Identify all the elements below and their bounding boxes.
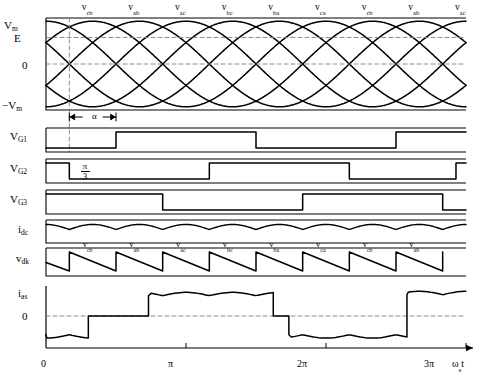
vdk-segment-label-5: vca <box>316 239 326 251</box>
xaxis-label: ωst <box>452 358 464 372</box>
vdk-segment-label-0: vcb <box>83 239 93 251</box>
supply-segment-label-8: vac <box>455 2 466 14</box>
alpha-annotation: α <box>92 111 97 121</box>
vdk-segment-label-1: vab <box>129 239 139 251</box>
supply-segment-label-0: vcb <box>82 2 93 14</box>
alpha-arrowhead-right <box>111 114 115 119</box>
vdk-segment-label-6: vcb <box>363 239 373 251</box>
trace-label-vg3: VG3 <box>10 194 27 205</box>
ylabel-zero-supply: 0 <box>22 60 28 71</box>
supply-segment-label-6: vcb <box>362 2 373 14</box>
vg3-waveform <box>46 194 466 210</box>
alpha-arrowhead-left <box>70 114 74 119</box>
ylabel-vm-negative: −Vm <box>2 100 22 111</box>
ias-waveform <box>46 291 466 338</box>
xtick-0: 0 <box>41 358 46 369</box>
supply-segment-label-4: vba <box>268 2 279 14</box>
vdk-segment-label-2: vac <box>176 239 186 251</box>
trace-label-vg2: VG2 <box>10 163 27 174</box>
vg2-waveform <box>46 163 466 179</box>
xtick-2pi: 2π <box>297 358 307 369</box>
vdk-segment-label-7: vab <box>409 239 419 251</box>
pi-over-3-annotation: π 3 <box>78 162 92 182</box>
ylabel-e: E <box>14 33 21 44</box>
xtick-3pi: 3π <box>424 358 434 369</box>
waveform-canvas <box>0 0 482 378</box>
ylabel-zero-ias: 0 <box>22 311 28 322</box>
idc-frame <box>46 220 466 243</box>
trace-label-ias: ias <box>18 288 27 299</box>
trace-label-idc: idc <box>18 224 28 235</box>
supply-segment-label-3: vbc <box>222 2 233 14</box>
waveform-figure: Vm E 0 −Vm VG1 VG2 VG3 idc vdk ias 0 α π… <box>0 0 482 378</box>
trace-label-vdk: vdk <box>16 253 29 264</box>
supply-segment-label-5: vca <box>315 2 326 14</box>
trace-label-vg1: VG1 <box>10 131 27 142</box>
vdk-segment-label-4: vba <box>269 239 279 251</box>
idc-waveform <box>46 224 466 229</box>
vg1-waveform <box>46 132 466 148</box>
x-axis-arrowhead <box>466 345 473 351</box>
vdk-waveform <box>46 252 443 271</box>
supply-segment-label-2: vac <box>175 2 186 14</box>
xtick-pi: π <box>168 358 173 369</box>
vdk-segment-label-3: vbc <box>223 239 233 251</box>
supply-segment-label-7: vab <box>408 2 419 14</box>
supply-segment-label-1: vab <box>128 2 139 14</box>
ylabel-vm-positive: Vm <box>4 20 18 31</box>
